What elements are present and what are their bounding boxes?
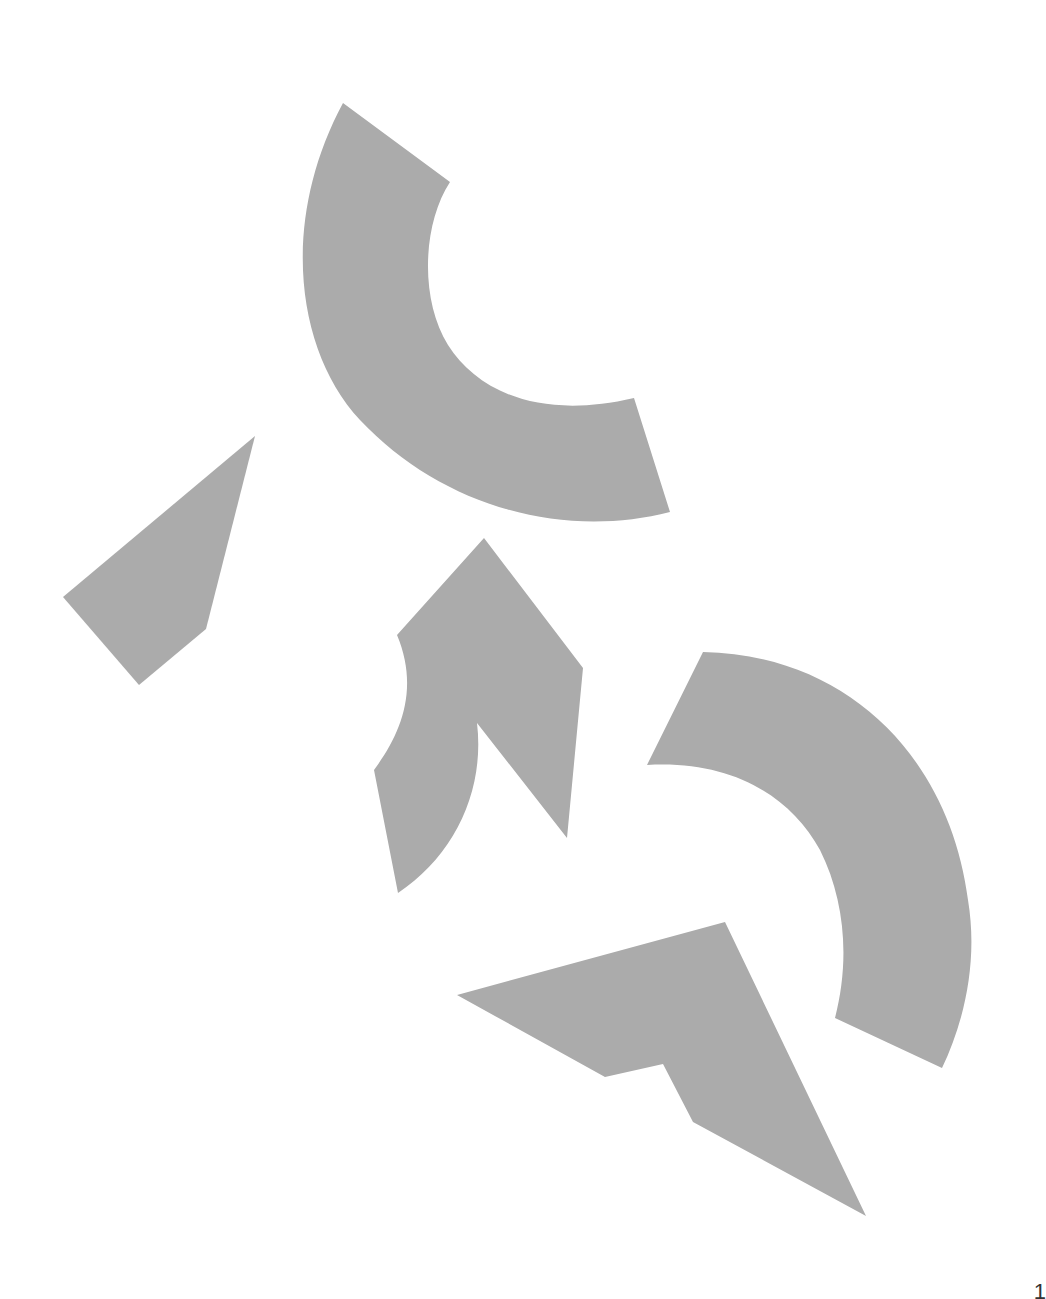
piece-left-quad [63, 436, 255, 685]
piece-bottom [457, 922, 866, 1216]
piece-top-arc [303, 103, 670, 521]
page-number-fragment: 1 [1034, 1281, 1046, 1299]
piece-middle [374, 538, 583, 893]
